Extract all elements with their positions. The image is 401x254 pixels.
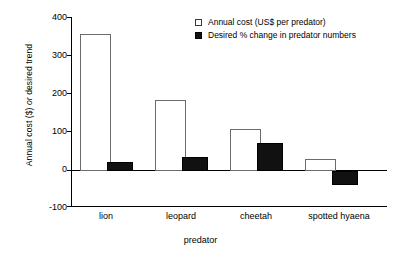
x-tick-label-spotted-hyaena: spotted hyaena [293,211,385,221]
bar-lion-annual-cost[interactable] [80,34,111,171]
bar-spotted-hyaena-annual-cost[interactable] [305,159,336,171]
x-axis-title: predator [0,235,401,245]
y-tick-mark-300 [67,55,71,56]
legend-item-desired-change[interactable]: Desired % change in predator numbers [195,29,356,42]
y-tick-mark-0 [67,170,71,171]
legend-label-desired-change: Desired % change in predator numbers [208,29,356,42]
x-tick-label-lion: lion [76,211,136,221]
y-axis-title-italic: or [24,97,34,105]
x-tick-label-cheetah: cheetah [226,211,286,221]
y-tick-label-400: 400 [33,13,67,22]
x-axis-line [71,206,387,207]
y-tick-mark-400 [67,17,71,18]
bar-lion-desired-change[interactable] [107,162,133,171]
bar-leopard-desired-change[interactable] [182,157,208,171]
y-tick-mark-minus-100 [67,206,71,207]
chart-figure: Annual cost ($) or desired trend 400 300… [0,0,401,254]
plot-area [71,17,387,207]
legend-item-annual-cost[interactable]: Annual cost (US$ per predator) [195,16,356,29]
y-tick-label-300: 300 [33,51,67,60]
bar-cheetah-desired-change[interactable] [257,143,283,171]
y-tick-mark-100 [67,131,71,132]
y-tick-label-minus-100: -100 [28,203,67,212]
y-tick-mark-200 [67,93,71,94]
bar-spotted-hyaena-desired-change[interactable] [332,171,358,185]
legend-swatch-open-square-icon [195,19,202,26]
x-tick-label-leopard: leopard [150,211,212,221]
y-tick-label-200: 200 [33,89,67,98]
chart-legend: Annual cost (US$ per predator) Desired %… [195,16,356,42]
legend-label-annual-cost: Annual cost (US$ per predator) [208,16,326,29]
y-tick-label-0: 0 [33,165,67,174]
y-axis-line [71,17,72,207]
legend-swatch-filled-square-icon [195,32,202,39]
y-tick-label-100: 100 [33,127,67,136]
